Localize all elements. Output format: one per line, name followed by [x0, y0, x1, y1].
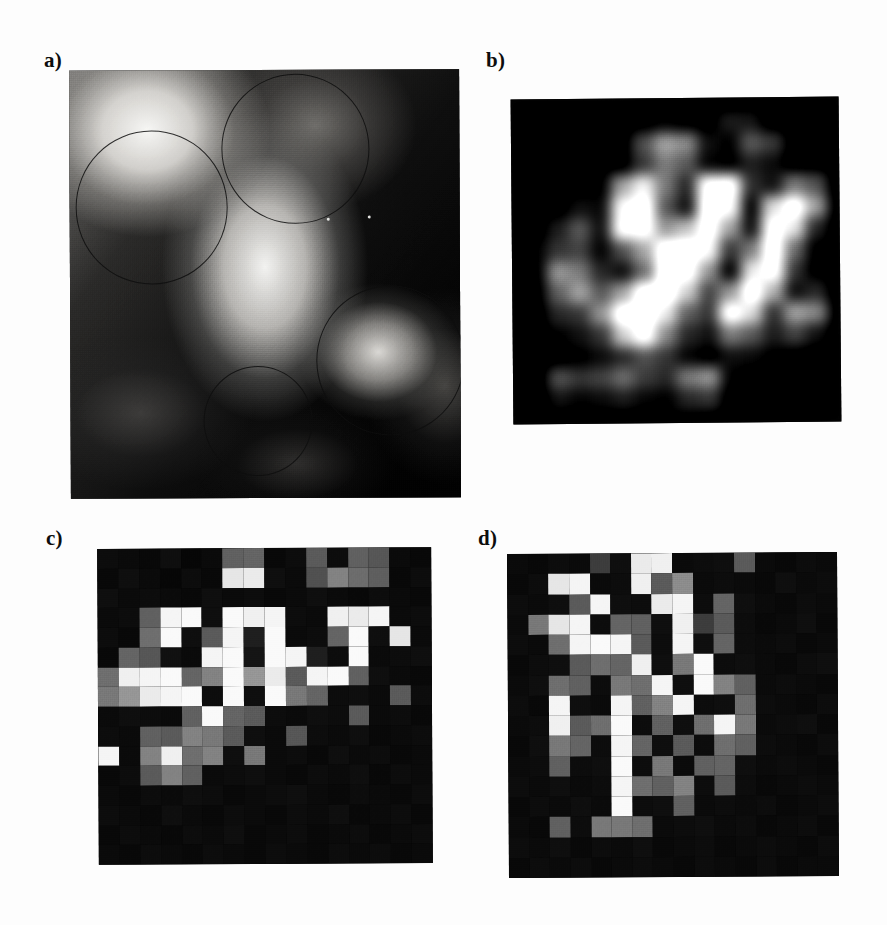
- heatmap-cell: [182, 706, 203, 726]
- heatmap-cell: [797, 674, 818, 694]
- heatmap-cell: [720, 345, 742, 366]
- heatmap-cell: [806, 387, 828, 408]
- heatmap-cell: [817, 734, 838, 754]
- heatmap-cell: [549, 635, 570, 655]
- heatmap-cell: [570, 389, 592, 410]
- heatmap-cell: [828, 387, 842, 408]
- heatmap-cell: [654, 175, 676, 196]
- heatmap-cell: [511, 241, 526, 262]
- heatmap-cell: [612, 325, 634, 346]
- heatmap-cell: [328, 686, 349, 706]
- heatmap-cell: [673, 634, 694, 654]
- heatmap-cell: [306, 627, 327, 647]
- heatmap-cell: [634, 346, 656, 367]
- heatmap-cell: [160, 568, 181, 588]
- heatmap-cell: [739, 97, 761, 111]
- heatmap-cell: [265, 745, 286, 765]
- heatmap-cell: [677, 409, 699, 424]
- heatmap-cell: [804, 110, 826, 131]
- heatmap-cell: [182, 845, 203, 865]
- heatmap-cell: [202, 627, 223, 647]
- heatmap-cell: [526, 283, 548, 304]
- heatmap-cell: [826, 152, 842, 173]
- heatmap-cell: [817, 572, 838, 592]
- heatmap-cell: [370, 804, 391, 824]
- heatmap-cell: [511, 304, 526, 325]
- heatmap-cell: [527, 411, 549, 425]
- heatmap-cell: [817, 613, 838, 633]
- heatmap-cell: [546, 134, 568, 155]
- heatmap-cell: [633, 218, 655, 239]
- heatmap-cell: [266, 844, 287, 864]
- roi-bottom-mid-circle: [203, 366, 313, 477]
- heatmap-cell: [524, 97, 546, 113]
- heatmap-cell: [611, 614, 632, 634]
- heatmap-cell: [673, 695, 694, 715]
- heatmap-cell: [349, 844, 370, 864]
- heatmap-cell: [118, 608, 139, 628]
- heatmap-cell: [693, 674, 714, 694]
- heatmap-cell: [119, 825, 140, 845]
- heatmap-cell: [118, 549, 139, 569]
- heatmap-cell: [817, 633, 838, 653]
- heatmap-cell: [652, 735, 673, 755]
- heatmap-cell: [119, 667, 140, 687]
- heatmap-cell: [349, 765, 370, 785]
- heatmap-cell: [182, 766, 203, 786]
- heatmap-cell: [631, 594, 652, 614]
- heatmap-cell: [612, 796, 633, 816]
- heatmap-cell: [672, 593, 693, 613]
- heatmap-cell: [389, 547, 410, 567]
- heatmap-cell: [818, 856, 839, 876]
- heatmap-cell: [783, 238, 805, 259]
- heatmap-cell: [756, 735, 777, 755]
- heatmap-cell: [796, 653, 817, 673]
- heatmap-cell: [720, 366, 742, 387]
- heatmap-cell: [139, 608, 160, 628]
- heatmap-cell: [784, 345, 806, 366]
- heatmap-cell: [673, 654, 694, 674]
- heatmap-cell: [369, 725, 390, 745]
- heatmap-cell: [761, 153, 783, 174]
- heatmap-cell: [306, 587, 327, 607]
- heatmap-cell: [203, 765, 224, 785]
- heatmap-cell: [160, 647, 181, 667]
- heatmap-cell: [735, 714, 756, 734]
- heatmap-cell: [776, 714, 797, 734]
- heatmap-cell: [655, 367, 677, 388]
- heatmap-cell: [652, 614, 673, 634]
- heatmap-cell: [511, 97, 525, 113]
- heatmap-cell: [98, 766, 119, 786]
- heatmap-cell: [412, 843, 433, 863]
- heatmap-cell: [528, 554, 549, 574]
- heatmap-cell: [525, 219, 547, 240]
- heatmap-cell: [633, 239, 655, 260]
- heatmap-cell: [245, 785, 266, 805]
- heatmap-cell: [817, 592, 838, 612]
- heatmap-cell: [694, 735, 715, 755]
- heatmap-cell: [370, 765, 391, 785]
- heatmap-cell: [775, 593, 796, 613]
- heatmap-cell: [244, 647, 265, 667]
- heatmap-cell: [591, 715, 612, 735]
- heatmap-cell: [349, 824, 370, 844]
- heatmap-cell: [589, 133, 611, 154]
- heatmap-cell: [632, 197, 654, 218]
- heatmap-cell: [98, 707, 119, 727]
- heatmap-cell: [694, 694, 715, 714]
- heatmap-cell: [612, 367, 634, 388]
- heatmap-cell: [139, 628, 160, 648]
- heatmap-cell: [548, 574, 569, 594]
- heatmap-cell: [761, 196, 783, 217]
- heatmap-cell: [307, 765, 328, 785]
- heatmap-cell: [714, 715, 735, 735]
- heatmap-cell: [160, 588, 181, 608]
- heatmap-cell: [633, 261, 655, 282]
- heatmap-cell: [97, 588, 118, 608]
- heatmap-cell: [285, 587, 306, 607]
- heatmap-cell: [264, 568, 285, 588]
- heatmap-cell: [611, 240, 633, 261]
- heatmap-cell: [244, 726, 265, 746]
- heatmap-cell: [763, 409, 785, 425]
- heatmap-cell: [590, 240, 612, 261]
